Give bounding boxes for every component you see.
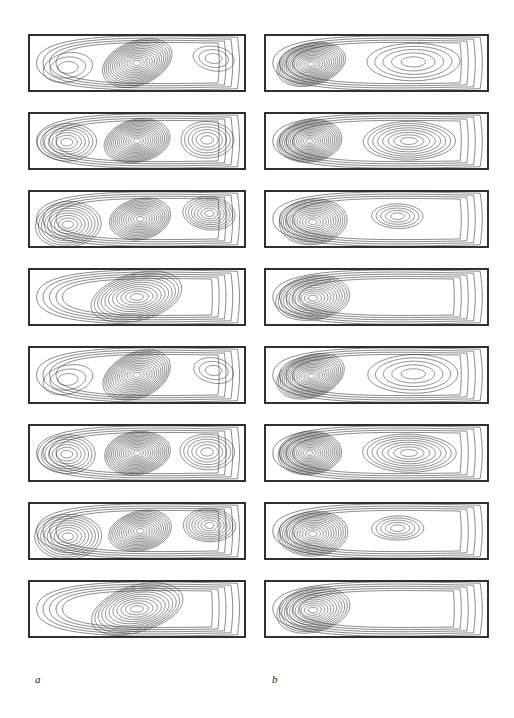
- column-label-b: b: [272, 673, 278, 685]
- figure-background: [0, 0, 514, 718]
- contour-figure: [0, 0, 514, 718]
- column-label-a: a: [35, 673, 41, 685]
